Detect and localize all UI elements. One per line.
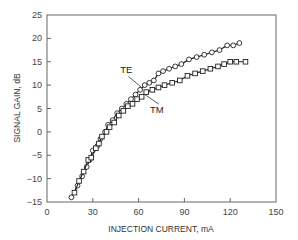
x-axis-title: INJECTION CURRENT, mA <box>108 224 214 234</box>
y-tick-label: 5 <box>37 104 42 114</box>
x-tick-label: 120 <box>223 207 238 217</box>
chart: −15−10−50510152025 0306090120150 TETM IN… <box>0 0 298 240</box>
x-tick-label: 60 <box>134 207 144 217</box>
y-tick-label: 25 <box>32 10 42 20</box>
y-axis-title: SIGNAL GAIN, dB <box>12 73 22 142</box>
y-tick-label: −5 <box>32 150 42 160</box>
y-tick-label: 20 <box>32 33 42 43</box>
y-tick-label: 10 <box>32 80 42 90</box>
annotation-te: TE <box>120 64 132 75</box>
y-tick-label: −10 <box>27 174 42 184</box>
x-tick-label: 0 <box>44 207 49 217</box>
y-tick-label: −15 <box>27 197 42 207</box>
series-tm <box>72 59 248 195</box>
x-tick-label: 150 <box>268 207 283 217</box>
y-tick-label: 15 <box>32 57 42 67</box>
x-axis: 0306090120150 <box>44 198 283 217</box>
x-tick-label: 30 <box>88 207 98 217</box>
x-tick-label: 90 <box>179 207 189 217</box>
data-series <box>69 41 248 200</box>
annotation-tm: TM <box>150 104 164 115</box>
y-tick-label: 0 <box>37 127 42 137</box>
